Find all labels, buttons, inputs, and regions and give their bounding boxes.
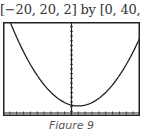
graph-window [3, 22, 140, 116]
figure-caption: Figure 9 [0, 119, 143, 129]
window-label: [−20, 20, 2] by [0, 40, 2] [0, 2, 143, 17]
